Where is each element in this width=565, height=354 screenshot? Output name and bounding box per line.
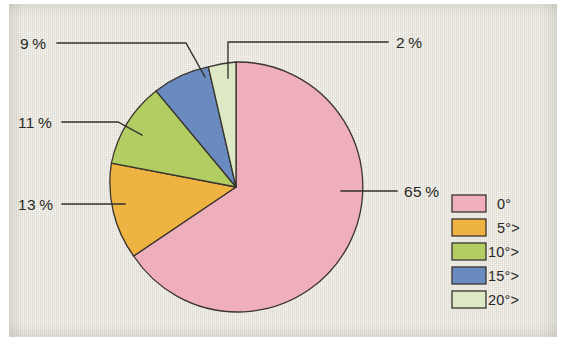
legend-label-5deg: 5°> bbox=[497, 220, 520, 236]
legend-item-15deg[interactable]: 15°> bbox=[452, 267, 519, 284]
percent-label-2: 2 % bbox=[396, 34, 422, 51]
legend-swatch-20deg bbox=[452, 291, 486, 308]
legend-label-15deg: 15°> bbox=[488, 268, 519, 284]
pie-slices bbox=[110, 62, 363, 312]
legend-swatch-10deg bbox=[452, 243, 486, 260]
legend-item-10deg[interactable]: 10°> bbox=[452, 243, 519, 260]
percent-label-9: 9 % bbox=[20, 35, 46, 52]
pie-chart-figure: 9 % 11 % 13 % 65 % 2 % 0° 5°> 10°> 15°> bbox=[0, 0, 565, 354]
screenshot-root: 9 % 11 % 13 % 65 % 2 % 0° 5°> 10°> 15°> bbox=[0, 0, 565, 354]
legend-item-0deg[interactable]: 0° bbox=[452, 195, 511, 212]
legend: 0° 5°> 10°> 15°> 20°> bbox=[452, 195, 520, 308]
legend-swatch-5deg bbox=[452, 219, 486, 236]
legend-label-20deg: 20°> bbox=[488, 292, 519, 308]
percent-label-11: 11 % bbox=[18, 114, 52, 131]
legend-item-20deg[interactable]: 20°> bbox=[452, 291, 519, 308]
percent-label-65: 65 % bbox=[404, 183, 439, 200]
legend-label-10deg: 10°> bbox=[488, 244, 519, 260]
percent-label-13: 13 % bbox=[18, 196, 53, 213]
legend-swatch-0deg bbox=[452, 195, 486, 212]
legend-label-0deg: 0° bbox=[497, 196, 511, 212]
legend-item-5deg[interactable]: 5°> bbox=[452, 219, 520, 236]
legend-swatch-15deg bbox=[452, 267, 486, 284]
leader-line-9pct bbox=[57, 43, 205, 77]
